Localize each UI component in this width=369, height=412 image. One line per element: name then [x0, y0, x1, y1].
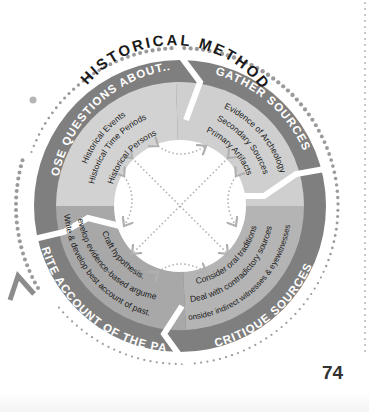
- ring-dot: [66, 316, 68, 318]
- ring-dot: [55, 106, 58, 109]
- ring-dot: [317, 129, 321, 133]
- ring-dot: [21, 251, 25, 255]
- page-number: 74: [322, 362, 343, 384]
- ring-dot: [320, 276, 322, 278]
- ring-dot: [303, 303, 305, 305]
- ring-dot: [36, 286, 40, 290]
- ring-dot: [194, 362, 196, 364]
- ring-dot: [77, 83, 80, 86]
- ring-dot: [322, 271, 324, 273]
- ring-dot: [333, 171, 337, 175]
- ring-dot: [286, 88, 290, 92]
- ring-dot: [30, 151, 32, 153]
- ring-dot: [334, 234, 337, 237]
- ring-dot: [276, 80, 280, 84]
- ring-dot: [17, 233, 21, 237]
- ring-dot: [331, 247, 334, 250]
- cycle-arrow: [10, 97, 37, 301]
- ring-dot: [14, 195, 18, 199]
- ring-dot: [119, 351, 121, 353]
- ring-dot: [325, 146, 329, 150]
- ring-dot: [14, 208, 18, 212]
- ring-dot: [113, 349, 115, 351]
- ring-dot: [336, 221, 339, 224]
- ring-dot: [25, 263, 29, 267]
- ring-dot: [219, 358, 221, 360]
- ring-dot: [16, 227, 20, 231]
- ring-dot: [265, 337, 267, 339]
- ring-dot: [28, 269, 32, 273]
- ring-dot: [299, 308, 301, 310]
- ring-dot: [323, 140, 327, 144]
- ring-dot: [15, 189, 19, 193]
- ring-dot: [314, 288, 316, 290]
- ring-dot: [102, 343, 104, 345]
- ring-dot: [206, 361, 208, 363]
- ring-dot: [200, 362, 202, 364]
- ring-dot: [336, 196, 339, 199]
- ring-dot: [285, 322, 287, 324]
- ring-dot: [15, 183, 19, 187]
- ring-dot: [86, 333, 88, 335]
- ring-dot: [281, 326, 283, 328]
- ring-dot: [76, 325, 78, 327]
- ring-dot: [33, 145, 35, 147]
- ring-dot: [21, 158, 25, 162]
- ring-dot: [243, 349, 245, 351]
- ring-dot: [47, 117, 50, 120]
- ring-dot: [125, 353, 127, 355]
- ring-dot: [290, 93, 294, 97]
- ring-dot: [41, 128, 44, 131]
- ring-dot: [23, 257, 27, 261]
- ring-dot: [18, 239, 22, 243]
- ring-dot: [307, 298, 309, 300]
- ring-dot: [14, 202, 18, 206]
- ring-dot: [62, 311, 64, 313]
- ring-dot: [156, 361, 158, 363]
- ring-dot: [237, 352, 239, 354]
- ring-dot: [325, 265, 327, 267]
- ring-dot: [331, 164, 335, 168]
- ring-dot: [320, 134, 324, 138]
- ring-dot: [249, 347, 251, 349]
- ring-dot: [335, 183, 338, 186]
- ring-dot: [107, 346, 109, 348]
- ring-dot: [314, 123, 318, 127]
- ring-dot: [72, 88, 75, 91]
- ring-dot: [149, 360, 151, 362]
- ring-dot: [336, 202, 339, 205]
- ring-dot: [33, 281, 37, 285]
- ring-dot: [317, 282, 319, 284]
- ring-dot: [276, 330, 278, 332]
- ring-dot: [310, 293, 312, 295]
- ring-dot: [19, 164, 23, 168]
- ring-dot: [231, 354, 233, 356]
- ring-dot: [335, 228, 338, 231]
- arc-start-dot: [30, 97, 37, 104]
- ring-dot: [307, 112, 311, 116]
- ring-dot: [334, 177, 338, 181]
- ring-dot: [329, 158, 333, 162]
- ring-dot: [290, 317, 292, 319]
- ring-dot: [303, 107, 307, 111]
- ring-dot: [143, 359, 145, 361]
- ring-dot: [14, 214, 18, 218]
- ring-dot: [168, 363, 170, 365]
- ring-dot: [35, 139, 37, 141]
- ring-dot: [44, 122, 47, 125]
- ring-dot: [63, 97, 66, 100]
- ring-dot: [281, 84, 285, 88]
- ring-dot: [131, 355, 133, 357]
- ring-dot: [38, 133, 40, 135]
- ring-dot: [58, 307, 60, 309]
- ring-dot: [225, 356, 227, 358]
- ring-dot: [260, 341, 262, 343]
- historical-method-diagram: HISTORICAL METHOD POSE QUESTIONS ABOUT..…: [0, 0, 369, 412]
- ring-dot: [336, 190, 339, 193]
- ring-dot: [16, 177, 20, 181]
- ring-dot: [254, 344, 256, 346]
- ring-dot: [162, 362, 164, 364]
- ring-dot: [51, 111, 54, 114]
- ring-dot: [213, 359, 215, 361]
- ring-dot: [30, 275, 34, 279]
